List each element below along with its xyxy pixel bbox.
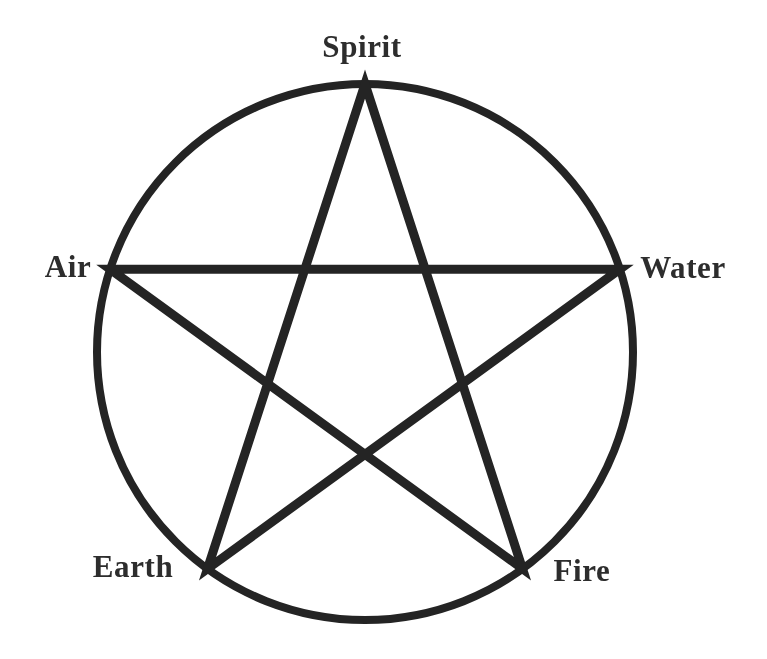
label-fire: Fire bbox=[554, 553, 611, 589]
label-spirit: Spirit bbox=[322, 29, 401, 65]
element-circle bbox=[97, 84, 633, 620]
pentagram-diagram: Spirit Air Water Earth Fire bbox=[0, 0, 767, 659]
label-earth: Earth bbox=[93, 549, 174, 585]
label-air: Air bbox=[45, 249, 92, 285]
label-water: Water bbox=[640, 250, 726, 286]
